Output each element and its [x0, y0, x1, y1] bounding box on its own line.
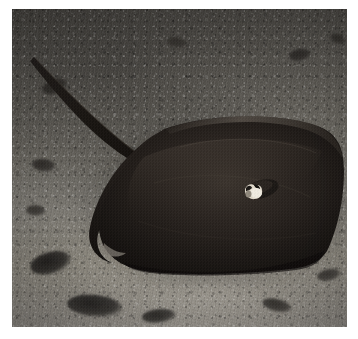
photograph — [12, 9, 347, 327]
stingray-marking-patch — [243, 181, 265, 201]
image-canvas: An underwater photograph of a dark grey-… — [0, 0, 358, 339]
stingray-body-disc — [84, 117, 346, 282]
